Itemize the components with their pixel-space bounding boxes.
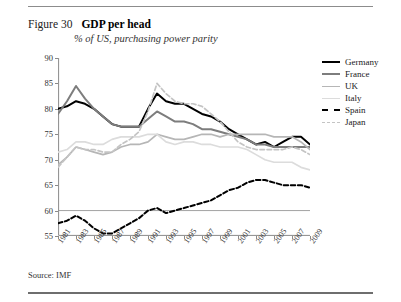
legend-swatch-icon (322, 73, 340, 75)
figure-header: Figure 30 GDP per head (28, 18, 151, 30)
x-axis-tick-mark (112, 236, 113, 239)
legend-swatch-icon (322, 98, 340, 99)
legend-swatch-icon (322, 122, 340, 123)
x-axis-tick-mark (202, 236, 203, 239)
y-axis-tick-label: 80 (31, 104, 53, 114)
chart-plot-area (58, 58, 310, 236)
legend-swatch-icon (322, 61, 340, 63)
series-line-france (58, 86, 310, 147)
x-axis-tick-mark (238, 236, 239, 239)
x-axis-tick-mark (274, 236, 275, 239)
top-divider (28, 6, 373, 7)
legend-label: Italy (345, 93, 362, 103)
figure-subtitle: % of US, purchasing power parity (74, 33, 218, 44)
y-axis-tick-mark (55, 83, 58, 84)
x-axis-tick-mark (76, 236, 77, 239)
x-axis-tick-mark (220, 236, 221, 239)
legend-label: Germany (345, 57, 379, 67)
legend-label: Spain (345, 105, 366, 115)
legend-item-germany: Germany (322, 57, 379, 67)
legend-swatch-icon (322, 86, 340, 87)
y-axis-tick-mark (55, 211, 58, 212)
x-axis-tick-mark (130, 236, 131, 239)
y-axis-tick-label: 65 (31, 180, 53, 190)
legend-item-france: France (322, 69, 379, 79)
y-axis-tick-label: 70 (31, 155, 53, 165)
x-axis-tick-mark (148, 236, 149, 239)
y-axis-tick-mark (55, 134, 58, 135)
y-axis-tick-label: 60 (31, 206, 53, 216)
x-axis-tick-mark (166, 236, 167, 239)
y-axis-tick-mark (55, 185, 58, 186)
y-axis-tick-label: 75 (31, 129, 53, 139)
legend-label: France (345, 69, 370, 79)
y-axis-tick-mark (55, 109, 58, 110)
legend-swatch-icon (322, 109, 340, 111)
chart-legend: GermanyFranceUKItalySpainJapan (322, 57, 379, 127)
source-note: Source: IMF (28, 270, 71, 280)
x-axis-tick-mark (94, 236, 95, 239)
figure-number: Figure 30 (28, 18, 72, 30)
series-line-japan (58, 83, 310, 167)
x-axis-tick-mark (310, 236, 311, 239)
y-axis-tick-label: 90 (31, 53, 53, 63)
series-line-spain (58, 180, 310, 233)
bottom-divider (28, 292, 373, 294)
legend-item-italy: Italy (322, 93, 379, 103)
legend-label: Japan (345, 117, 366, 127)
x-axis-tick-mark (184, 236, 185, 239)
legend-item-spain: Spain (322, 105, 379, 115)
y-axis-tick-mark (55, 160, 58, 161)
line-chart-svg (58, 58, 310, 236)
x-axis-tick-mark (256, 236, 257, 239)
page-title: GDP per head (81, 18, 150, 30)
legend-item-uk: UK (322, 81, 379, 91)
legend-label: UK (345, 81, 358, 91)
y-axis-tick-label: 55 (31, 231, 53, 241)
y-axis-tick-label: 85 (31, 78, 53, 88)
x-axis-tick-mark (58, 236, 59, 239)
x-axis-tick-mark (292, 236, 293, 239)
legend-item-japan: Japan (322, 117, 379, 127)
y-axis-tick-mark (55, 58, 58, 59)
